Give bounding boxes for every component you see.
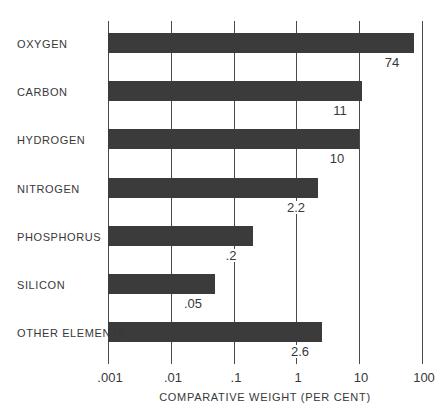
x-tick-label: 1 — [294, 371, 301, 384]
gridline — [422, 21, 423, 364]
category-label: CARBON — [17, 86, 68, 98]
x-tick-label: 100 — [413, 371, 435, 384]
category-label: OTHER ELEMENTS — [17, 327, 126, 339]
x-tick-label: .01 — [164, 371, 182, 384]
category-label: PHOSPHORUS — [17, 231, 101, 243]
category-label: NITROGEN — [17, 183, 80, 195]
value-label: 2.2 — [285, 201, 307, 214]
value-label: .2 — [224, 249, 239, 262]
bar — [108, 33, 414, 53]
category-label: OXYGEN — [17, 38, 68, 50]
bar — [108, 81, 362, 101]
category-label: SILICON — [17, 279, 65, 291]
value-label: 2.6 — [289, 345, 311, 358]
bar — [108, 178, 318, 198]
x-tick-label: .001 — [97, 371, 122, 384]
value-label: 10 — [328, 152, 346, 165]
value-label: .05 — [182, 297, 204, 310]
category-label: HYDROGEN — [17, 134, 85, 146]
bar-chart-figure: OXYGEN74CARBON11HYDROGEN10NITROGEN2.2PHO… — [0, 0, 444, 413]
bar — [108, 274, 215, 294]
gridline — [359, 21, 360, 364]
bar — [108, 226, 253, 246]
x-tick-label: .1 — [231, 371, 242, 384]
x-axis-title: COMPARATIVE WEIGHT (PER CENT) — [108, 391, 422, 403]
bar — [108, 129, 359, 149]
x-tick-label: 10 — [354, 371, 368, 384]
bar — [108, 322, 322, 342]
value-label: 74 — [383, 56, 401, 69]
value-label: 11 — [331, 104, 349, 117]
